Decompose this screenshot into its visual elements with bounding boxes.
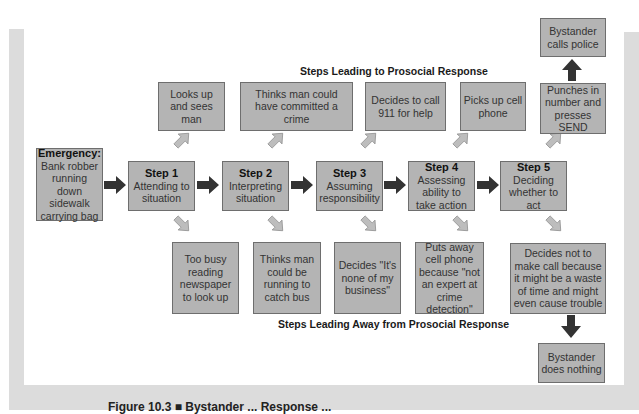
diagonal-up-arrows [171,128,566,151]
step-3-box: Step 3 Assuming responsibility [316,161,383,211]
arrow-down-icon [561,315,581,338]
step-2-box: Step 2 Interpreting situation [222,161,289,211]
arrow-right-icon [291,176,313,194]
diagonal-up-arrow-icon [450,128,473,151]
step-5-box: Step 5 Deciding whether to act [500,161,567,211]
arrow-right-icon [197,176,219,194]
step-text: Assessing ability to take action [411,174,472,212]
arrow-right-icon [477,176,499,194]
step-title: Step 5 [517,161,550,174]
diagonal-down-arrow-icon [543,213,566,236]
prosocial-outcome-box: Bystander calls police [540,18,606,57]
prosocial-box-2: Thinks man could have committed a crime [240,82,353,131]
emergency-box: Emergency: Bank robber running down side… [36,148,103,221]
prosocial-box-1: Looks up and sees man [158,82,225,131]
antisocial-outcome-box: Bystander does nothing [538,343,605,383]
emergency-text: Bank robber running down sidewalk carryi… [39,160,100,223]
step-text: Deciding whether to act [503,174,564,212]
antisocial-box-2: Thinks man could be running to catch bus [253,242,321,314]
diagonal-up-arrow-icon [265,128,288,151]
diagonal-up-arrow-icon [171,128,194,151]
diagonal-down-arrow-icon [265,213,288,236]
step-title: Step 4 [425,161,458,174]
antisocial-box-3: Decides "It's none of my business" [334,242,401,314]
step-1-box: Step 1 Attending to situation [128,161,195,211]
antisocial-heading: Steps Leading Away from Prosocial Respon… [278,318,509,330]
step-text: Assuming responsibility [319,180,380,205]
step-title: Step 1 [145,167,178,180]
prosocial-box-4: Picks up cell phone [460,82,526,131]
step-title: Step 2 [239,167,272,180]
antisocial-box-4: Puts away cell phone because "not an exp… [415,242,484,314]
diagonal-down-arrow-icon [358,213,381,236]
diagonal-down-arrow-icon [450,213,473,236]
diagonal-down-arrows [171,213,566,236]
arrow-right-icon [104,176,126,194]
emergency-title: Emergency: [38,147,101,160]
step-title: Step 3 [333,167,366,180]
prosocial-heading: Steps Leading to Prosocial Response [300,65,488,77]
step-text: Interpreting situation [225,180,286,205]
prosocial-box-5: Punches in number and presses SEND [540,83,606,134]
step-text: Attending to situation [131,180,192,205]
diagonal-down-arrow-icon [171,213,194,236]
arrow-up-icon [562,59,582,81]
antisocial-box-5: Decides not to make call because it migh… [510,243,606,314]
figure-caption: Figure 10.3 ■ Bystander ... Response ... [108,400,331,414]
diagonal-up-arrow-icon [358,128,381,151]
step-4-box: Step 4 Assessing ability to take action [408,161,475,211]
prosocial-box-3: Decides to call 911 for help [365,82,446,131]
arrow-right-icon [384,176,406,194]
antisocial-box-1: Too busy reading newspaper to look up [172,242,239,314]
